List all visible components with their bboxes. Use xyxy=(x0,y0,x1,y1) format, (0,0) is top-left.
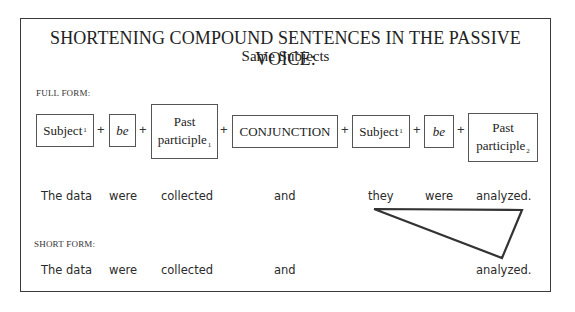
example-word: analyzed. xyxy=(476,263,531,277)
example-word: were xyxy=(109,263,137,277)
short-form-label: SHORT FORM: xyxy=(34,239,95,249)
example-word: The data xyxy=(41,263,92,277)
example-word: collected xyxy=(161,263,213,277)
example-word: and xyxy=(274,263,296,277)
